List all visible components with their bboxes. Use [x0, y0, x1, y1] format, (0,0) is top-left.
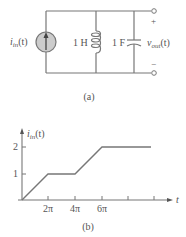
x-tick-label-6pi: 6π — [97, 203, 107, 214]
current-waveform-line — [22, 147, 151, 200]
y-tick-label-1: 1 — [13, 168, 18, 179]
caption-a: (a) — [83, 91, 94, 103]
x-axis-arrow-icon — [167, 198, 173, 202]
inductor-label: 1 H — [73, 37, 88, 48]
y-axis-label: iin(t) — [27, 128, 45, 141]
x-tick-label-4pi: 4π — [70, 203, 80, 214]
inductor-icon — [92, 31, 101, 53]
output-terminal-positive — [152, 9, 157, 14]
input-current-graph: 1 2 2π 4π 6π iin(t) t (b) — [13, 128, 179, 233]
y-tick-label-2: 2 — [13, 141, 18, 152]
output-terminal-negative — [152, 71, 157, 76]
minus-sign: − — [151, 59, 156, 69]
circuit-diagram: iin(t) 1 H 1 F + − vout(t) (a) — [10, 9, 170, 103]
x-tick-label-2pi: 2π — [43, 203, 53, 214]
capacitor-label: 1 F — [112, 37, 126, 48]
output-voltage-label: vout(t) — [147, 37, 170, 50]
plus-sign: + — [151, 16, 156, 26]
caption-b: (b) — [82, 221, 94, 233]
y-axis-arrow-icon — [20, 128, 24, 134]
current-source — [36, 32, 56, 52]
figure: iin(t) 1 H 1 F + − vout(t) (a) 1 2 — [0, 0, 186, 237]
source-label: iin(t) — [10, 36, 28, 49]
x-axis-label: t — [176, 194, 179, 205]
